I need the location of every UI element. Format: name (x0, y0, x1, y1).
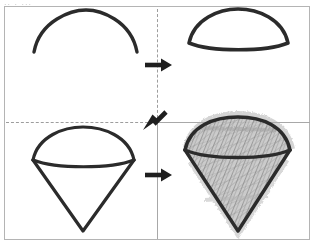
panel-step-4[interactable] (158, 123, 311, 241)
panel-step-3[interactable] (5, 123, 158, 241)
arrow-step3-to-step4[interactable] (144, 167, 170, 183)
cropped-text-remnant: .. . ... (4, 0, 64, 5)
drawing-tutorial-page: .. . ... (0, 0, 316, 245)
arrow-step2-to-step3[interactable] (140, 110, 168, 132)
panel-step-1[interactable] (5, 7, 158, 123)
arrow-step1-to-step2[interactable] (144, 57, 170, 73)
divider-horizontal-right-solid (158, 122, 310, 123)
panel-step-2[interactable] (158, 7, 311, 123)
divider-horizontal-left-dashed (6, 122, 158, 123)
